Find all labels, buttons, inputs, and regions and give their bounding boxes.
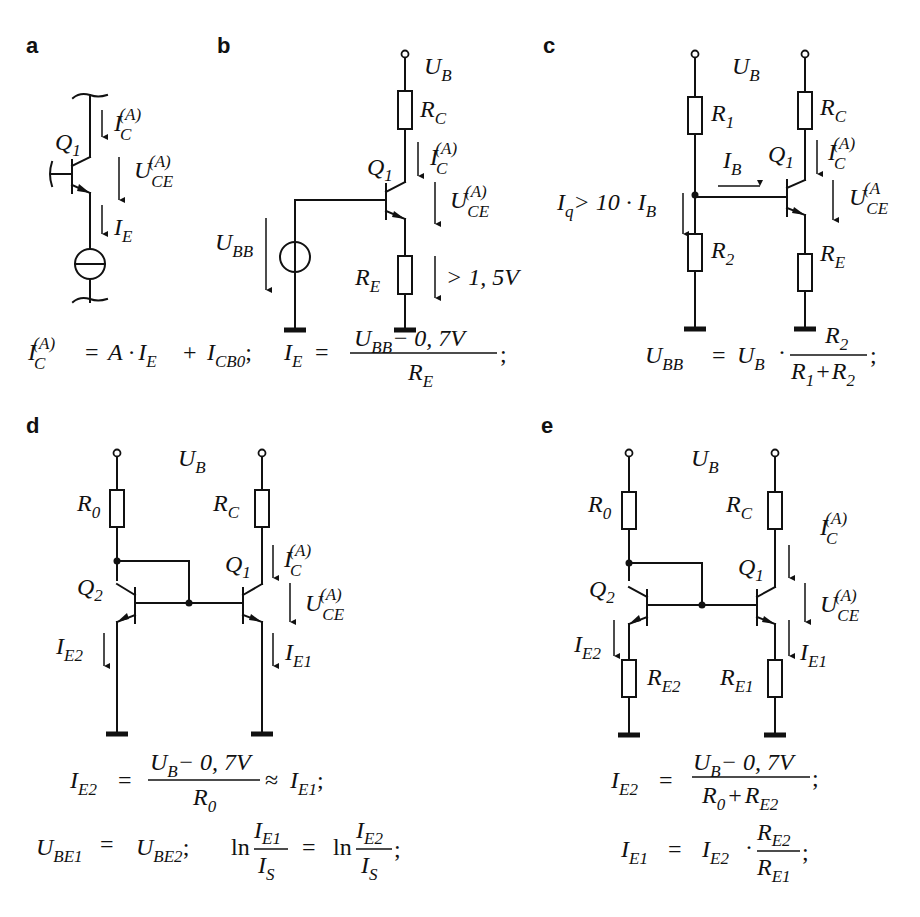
formula-c-numerator: R2 [824,322,849,354]
plus-sign: + [183,339,197,365]
label-ie1-d: IE1 [284,639,312,671]
supply-terminal-icon [114,450,121,457]
label-uce-a: UCE(A) [134,152,174,191]
diode-connection-wire [117,561,189,603]
formula-ie-denominator: RE [407,359,434,391]
label-re2: RE2 [646,664,681,696]
resistor-icon [255,490,269,527]
equals-sign: = [712,342,726,368]
label-r0-d: R0 [76,490,101,522]
formula-ln-den-1: IS [257,852,275,884]
junction-dot-icon [699,602,706,609]
equals-sign: = [85,339,99,365]
formula-ie1-lhs-e: IE1 [620,836,648,868]
panel-label-c: c [543,33,555,58]
label-re-c: RE [819,240,846,272]
resistor-icon [768,660,782,697]
npn-transistor-icon-q2 [629,587,647,625]
supply-terminal-icon [402,51,409,58]
base-wire [295,200,386,242]
semicolon: ; [394,836,401,862]
formula-ube2: UBE2; [136,834,189,866]
formula-ln-num-1: IE1 [253,817,281,848]
junction-dot-icon [186,600,193,607]
dot-operator: · [778,339,786,365]
label-ie1-e: IE1 [799,639,827,671]
npn-transistor-icon-q2 [117,584,135,623]
equals-sign: = [659,767,673,793]
resistor-icon [110,490,124,527]
label-q1-c: Q1 [768,141,794,172]
formula-ie1-rhs: IE1; [289,767,324,799]
label-uce-e: UCE(A) [820,586,860,625]
formula-a-ie: A ·IE [106,339,157,371]
dot-operator: · [745,834,753,860]
label-ub-e: UB [691,445,719,477]
panel-a: Q1 IC(A) UCE(A) IE [50,94,174,302]
formula-c-denominator: R1+R2 [790,358,855,390]
label-uce-c: UCE(A [849,179,889,218]
formula-ie-numerator: UBB− 0, 7V [354,325,467,357]
circuit-figure: a b c d e Q1 IC(A) UCE(A) IE [0,0,920,917]
label-rc-c: RC [819,94,847,126]
equals-sign: = [302,834,316,860]
formula-ie2-lhs: IE2 [69,767,97,799]
label-ic-e: IC(A) [819,509,847,548]
label-r1: R1 [710,100,734,132]
supply-terminal-icon [802,51,809,58]
panel-label-d: d [26,413,39,438]
resistor-icon [622,492,636,529]
label-q1-b: Q1 [367,154,393,185]
label-q2-e: Q2 [589,576,615,607]
resistor-icon [622,660,636,697]
formula-d-numerator: UB− 0, 7V [150,749,253,781]
supply-terminal-icon [626,450,633,457]
label-rc-b: RC [419,96,447,128]
semicolon: ; [870,342,877,368]
supply-terminal-icon [772,450,779,457]
npn-transistor-icon [787,180,805,216]
formula-ie2-rhs-e: IE2 [701,836,729,868]
formula-icb0: ICB0; [206,339,252,371]
equals-sign: = [118,767,132,793]
equals-sign: = [668,836,682,862]
panel-label-b: b [217,33,230,58]
formula-ub: UB [737,342,765,374]
label-ib: IB [722,147,742,179]
label-iq: Iq> 10 · IB [556,189,657,221]
ln-operator: ln [333,834,352,860]
formula-ubb-lhs: UBB [645,342,684,374]
diode-connection-wire [629,563,702,605]
label-ub-d: UB [178,445,206,477]
label-ie2-d: IE2 [55,633,83,665]
formula-d-approx: ≈ [265,767,278,793]
formula-e: IE2 = UB− 0, 7V R0+RE2 ; IE1 = IE2 · RE2… [610,749,819,886]
npn-transistor-icon-q1 [243,584,262,623]
label-ub-b: UB [424,53,452,85]
voltage-source-icon [280,242,310,272]
formula-d: IE2 = UB− 0, 7V R0 ≈ IE1; UBE1 = UBE2; l… [36,749,401,884]
formula-c: UBB = UB · R2 R1+R2 ; [645,322,877,390]
label-q2-d: Q2 [77,574,103,605]
label-r0-e: R0 [587,491,612,523]
label-re-voltage: > 1, 5V [446,264,521,290]
label-ic-c: IC(A) [827,134,855,173]
label-q1-d: Q1 [225,551,251,582]
resistor-icon [768,492,782,529]
label-ic-a: IC(A) [113,105,141,144]
supply-terminal-icon [259,450,266,457]
label-ub-c: UB [732,53,760,85]
formula-ie2-lhs-e: IE2 [610,767,638,799]
label-re1: RE1 [719,664,754,696]
panel-label-e: e [541,413,553,438]
current-source-icon [75,249,105,279]
label-r2: R2 [710,237,735,269]
panel-c: UB R1 RC IB Q1 IC(A) UCE(A Iq> 10 · IB R… [556,51,889,330]
equals-sign: = [315,339,329,365]
formula-ln-den-2: IS [360,852,378,884]
formula-ln-num-2: IE2 [355,817,383,848]
npn-transistor-icon-q1 [757,587,775,625]
formula-e-denominator: R0+RE2 [701,782,779,814]
formula-ic-lhs: IC(A) [27,334,55,373]
label-rc-e: RC [725,491,753,523]
